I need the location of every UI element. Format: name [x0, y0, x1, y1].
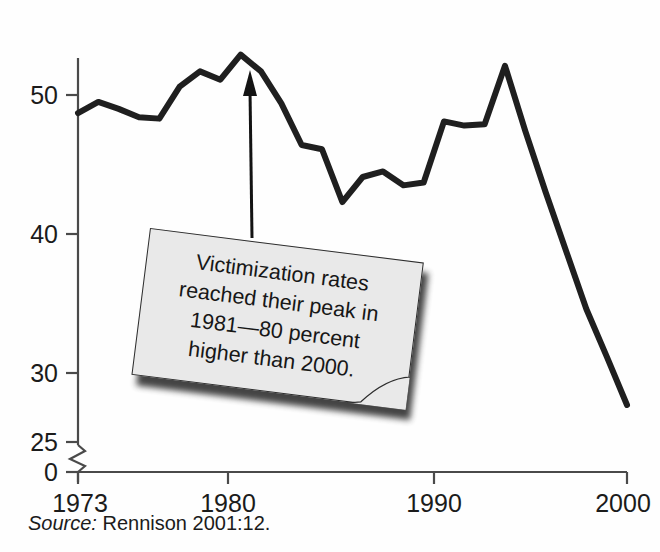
y-tick-label-30: 30: [30, 359, 58, 387]
x-tick-label-2000: 2000: [595, 489, 651, 517]
y-axis-break-zigzag: [70, 445, 85, 472]
y-tick-label-40: 40: [30, 220, 58, 248]
y-tick-label-0: 0: [44, 458, 58, 486]
y-tick-label-50: 50: [30, 81, 58, 109]
x-tick-label-1990: 1990: [406, 489, 462, 517]
y-tick-label-25: 25: [30, 428, 58, 456]
source-label: Source:: [28, 512, 97, 534]
source-text: Rennison 2001:12.: [97, 512, 270, 534]
figure-container: 50 40 30 25 0 1973 1980 1990 2000: [0, 0, 660, 552]
source-note: Source: Rennison 2001:12.: [28, 512, 270, 535]
annotation-arrow: [243, 70, 257, 238]
